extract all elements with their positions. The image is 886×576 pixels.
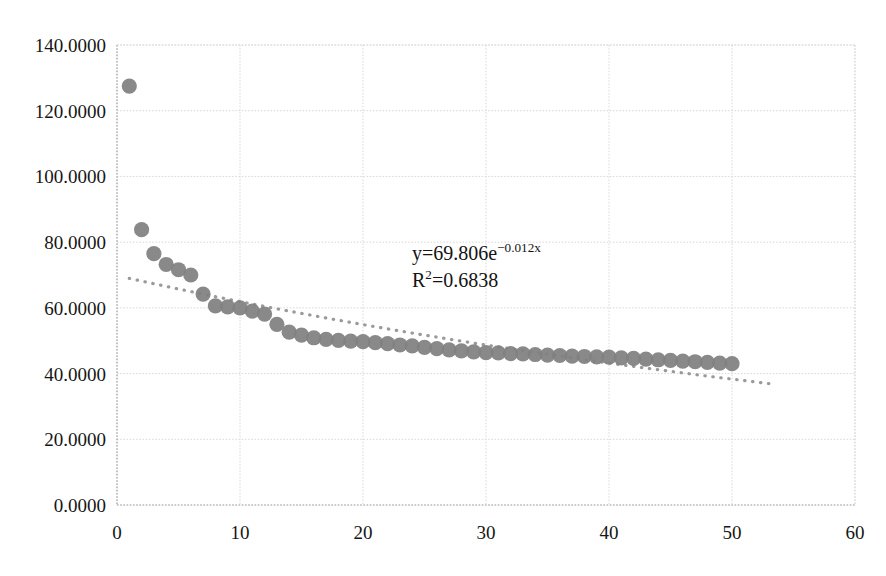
x-axis-tick-label: 60: [846, 523, 865, 542]
scatter-point: [183, 267, 198, 282]
scatter-point: [134, 222, 149, 237]
scatter-point: [724, 356, 739, 371]
trendline-path: [129, 278, 769, 383]
y-axis-tick-label: 40.0000: [0, 364, 106, 383]
r-squared-line: R2=0.6838: [412, 267, 541, 294]
equation-line: y=69.806e−0.012x: [412, 240, 541, 267]
y-axis-tick-label: 120.0000: [0, 101, 106, 120]
x-axis-tick-label: 0: [112, 523, 122, 542]
r-squared-superscript: 2: [425, 267, 432, 282]
x-axis-tick-label: 10: [231, 523, 250, 542]
scatter-point: [122, 78, 137, 93]
y-axis-tick-label: 0.0000: [0, 496, 106, 515]
x-axis-tick-label: 40: [600, 523, 619, 542]
x-axis-tick-label: 30: [477, 523, 496, 542]
equation-body: y=69.806e: [412, 242, 497, 264]
scatter-point: [146, 246, 161, 261]
x-axis-tick-label: 20: [354, 523, 373, 542]
y-axis-tick-label: 100.0000: [0, 167, 106, 186]
trendline-exponential-fit: [129, 278, 769, 383]
scatter-point: [196, 286, 211, 301]
trendline-equation-annotation: y=69.806e−0.012x R2=0.6838: [412, 240, 541, 294]
x-axis-tick-label: 50: [723, 523, 742, 542]
y-axis-tick-label: 20.0000: [0, 430, 106, 449]
y-axis-tick-label: 140.0000: [0, 36, 106, 55]
equation-exponent: −0.012x: [497, 240, 541, 255]
scatter-point: [257, 307, 272, 322]
y-axis-tick-label: 60.0000: [0, 298, 106, 317]
r-squared-value: =0.6838: [432, 269, 498, 291]
r-squared-symbol: R: [412, 269, 425, 291]
y-axis-tick-label: 80.0000: [0, 233, 106, 252]
scatter-markers: [122, 78, 740, 371]
exponential-decay-scatter-chart: 0.000020.000040.000060.000080.0000100.00…: [0, 0, 886, 576]
